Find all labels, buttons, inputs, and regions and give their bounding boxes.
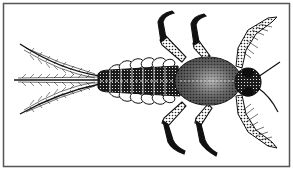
illustration-frame (0, 0, 293, 171)
thorax (175, 57, 241, 105)
head (235, 68, 261, 97)
abdomen (98, 66, 180, 96)
eye-upper (242, 69, 254, 78)
eye-lower (242, 88, 254, 97)
mayfly-nymph-illustration (0, 0, 293, 171)
